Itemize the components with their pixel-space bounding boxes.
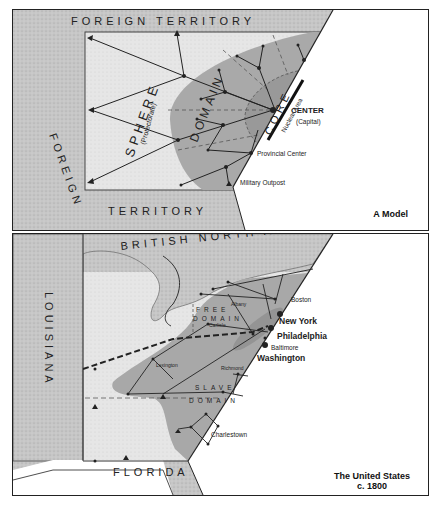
free-domain-label-2: DOMAIN [193,315,243,322]
florida-label: FLORIDA [113,466,189,478]
foreign-territory-top-label: FOREIGN TERRITORY [71,15,255,27]
united-states-panel: BRITISH NORTH AMERICA LOUISIANA FLORIDA … [12,233,429,496]
city-albany: Albany [231,301,247,307]
slave-domain-label-1: SLAVE [195,384,235,391]
military-outpost-label: Military Outpost [240,179,285,187]
free-domain-label-1: FREE [196,306,229,313]
model-map: FOREIGN TERRITORY TERRITORY FOREIGN SPHE… [13,10,428,230]
provincial-center-label: Provincial Center [257,150,307,157]
center-label: CENTER [291,106,324,115]
united-states-map: BRITISH NORTH AMERICA LOUISIANA FLORIDA … [13,234,428,495]
city-baltimore: Baltimore [271,344,299,351]
caption-line-1: The United States [334,471,410,481]
city-richmond: Richmond [221,365,244,371]
city-charlestown: Charlestown [211,431,248,438]
city-boston: Boston [291,296,312,303]
center-sublabel: (Capital) [296,118,321,126]
foreign-territory-bottom-label: TERRITORY [108,205,207,217]
city-lexington: Lexington [156,362,178,368]
model-panel: FOREIGN TERRITORY TERRITORY FOREIGN SPHE… [12,9,429,231]
caption-line-2: c. 1800 [334,481,410,491]
model-caption: A Model [373,209,408,219]
city-new-york: New York [279,316,317,326]
city-philadelphia: Philadelphia [277,331,327,341]
city-carlisle: Carlisle [209,322,226,328]
louisiana-label: LOUISIANA [43,292,55,387]
united-states-caption: The United States c. 1800 [334,471,410,491]
slave-domain-label-2: DOMAIN [189,397,239,404]
city-washington: Washington [257,353,305,363]
